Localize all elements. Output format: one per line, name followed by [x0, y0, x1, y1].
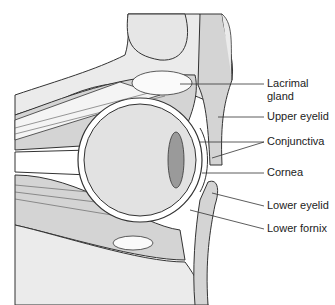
label-lacrimal-line2: gland — [267, 90, 309, 103]
label-cornea: Cornea — [267, 166, 303, 179]
eye-illustration — [0, 0, 335, 305]
eye-diagram: Lacrimal gland Upper eyelid Conjunctiva … — [0, 0, 335, 305]
label-lower-eyelid: Lower eyelid — [267, 199, 329, 212]
label-upper-eyelid: Upper eyelid — [267, 110, 329, 123]
label-lacrimal-gland: Lacrimal gland — [267, 77, 309, 103]
label-lacrimal-line1: Lacrimal — [267, 77, 309, 90]
label-conjunctiva: Conjunctiva — [267, 135, 324, 148]
label-lower-fornix: Lower fornix — [267, 222, 327, 235]
